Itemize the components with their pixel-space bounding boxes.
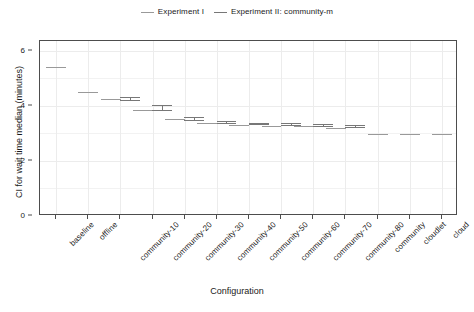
ci-center-tick	[226, 121, 227, 124]
legend-entry-experiment-2: Experiment II: community-m	[214, 7, 333, 17]
gridline-vertical	[249, 41, 250, 214]
ci-line	[165, 119, 185, 120]
ci-center-tick	[323, 124, 324, 127]
ci-interval-mark	[152, 105, 172, 111]
ci-line	[229, 125, 249, 126]
ci-interval-mark	[326, 127, 346, 128]
ci-center-tick	[291, 123, 292, 126]
legend-label-experiment-2: Experiment II: community-m	[231, 7, 333, 17]
line-swatch-icon-experiment-2	[214, 12, 227, 13]
x-tick-mark	[87, 215, 88, 219]
y-tick-label: 6	[21, 45, 25, 54]
ci-interval-mark	[197, 122, 217, 123]
ci-line	[432, 134, 452, 135]
ci-interval-mark	[281, 123, 301, 126]
y-tick-label: 2	[21, 155, 25, 164]
gridline-horizontal	[40, 106, 456, 107]
gridline-vertical	[378, 41, 379, 214]
ci-line	[262, 126, 282, 127]
ci-center-tick	[259, 123, 260, 126]
x-tick-label: cloud	[451, 220, 471, 240]
ci-interval-mark	[400, 133, 420, 134]
ci-interval-mark	[432, 133, 452, 134]
ci-line	[46, 67, 66, 68]
ci-line	[197, 123, 217, 124]
ci-line	[326, 128, 346, 129]
x-tick-mark	[377, 215, 378, 219]
ci-line	[78, 92, 98, 93]
line-swatch-icon-experiment-1	[141, 12, 154, 13]
ci-interval-mark	[368, 133, 388, 134]
x-tick-mark	[280, 215, 281, 219]
gridline-vertical	[217, 41, 218, 214]
ci-center-tick	[355, 125, 356, 128]
gridline-vertical	[313, 41, 314, 214]
x-tick-label: baseline	[68, 220, 96, 248]
x-tick-mark	[248, 215, 249, 219]
gridline-vertical	[410, 41, 411, 214]
ci-line	[400, 134, 420, 135]
gridline-vertical	[88, 41, 89, 214]
ci-interval-mark	[46, 66, 66, 67]
ci-center-tick	[130, 97, 131, 100]
ci-interval-mark	[101, 99, 121, 100]
ci-center-tick	[162, 105, 163, 111]
gridline-vertical	[442, 41, 443, 214]
ci-interval-mark	[313, 124, 333, 127]
chart-figure: Experiment I Experiment II: community-m …	[0, 0, 474, 312]
y-tick-mark	[28, 104, 32, 105]
x-tick-mark	[409, 215, 410, 219]
ci-interval-mark	[133, 109, 153, 110]
ci-line	[294, 126, 314, 127]
plot-area	[39, 40, 457, 215]
ci-interval-mark	[165, 119, 185, 120]
gridline-horizontal-minor	[40, 133, 456, 134]
y-tick-mark	[28, 215, 32, 216]
gridline-vertical	[153, 41, 154, 214]
x-tick-mark	[119, 215, 120, 219]
x-tick-mark	[184, 215, 185, 219]
gridline-vertical	[185, 41, 186, 214]
x-tick-label: offline	[98, 220, 120, 242]
ci-interval-mark	[78, 92, 98, 93]
gridline-vertical	[120, 41, 121, 214]
gridline-horizontal	[40, 161, 456, 162]
y-tick-mark	[28, 159, 32, 160]
ci-interval-mark	[345, 125, 365, 128]
ci-interval-mark	[217, 121, 237, 124]
x-axis-title: Configuration	[0, 286, 474, 296]
x-tick-mark	[312, 215, 313, 219]
ci-interval-mark	[249, 123, 269, 126]
x-tick-mark	[441, 215, 442, 219]
ci-line	[101, 99, 121, 100]
ci-line	[133, 110, 153, 111]
ci-line	[368, 134, 388, 135]
legend-label-experiment-1: Experiment I	[158, 7, 204, 17]
x-tick-mark	[344, 215, 345, 219]
y-tick-label: 4	[21, 100, 25, 109]
y-axis-ticks: 0246	[0, 40, 32, 215]
x-axis-ticks: baselineofflinecommunity-10community-20c…	[39, 220, 457, 282]
gridline-horizontal	[40, 51, 456, 52]
ci-interval-mark	[184, 117, 204, 121]
chart-legend: Experiment I Experiment II: community-m	[0, 7, 474, 17]
ci-interval-mark	[229, 124, 249, 125]
x-tick-mark	[216, 215, 217, 219]
gridline-vertical	[281, 41, 282, 214]
legend-entry-experiment-1: Experiment I	[141, 7, 204, 17]
x-tick-mark	[152, 215, 153, 219]
x-tick-mark	[55, 215, 56, 219]
y-tick-mark	[28, 49, 32, 50]
ci-center-tick	[194, 117, 195, 121]
ci-interval-mark	[120, 97, 140, 100]
y-tick-label: 0	[21, 211, 25, 220]
gridline-horizontal-minor	[40, 188, 456, 189]
gridline-horizontal-minor	[40, 78, 456, 79]
